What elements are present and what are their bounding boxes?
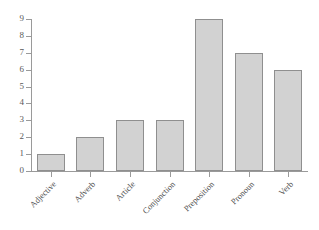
y-axis-tick-label-text: 5 bbox=[2, 82, 24, 91]
bar bbox=[37, 154, 65, 171]
y-axis-tick-label-text: 8 bbox=[2, 31, 24, 40]
x-axis-tick bbox=[249, 172, 250, 177]
x-axis-tick bbox=[209, 172, 210, 177]
bar bbox=[274, 70, 302, 171]
y-axis-tick-label: 8 bbox=[0, 31, 24, 40]
y-axis-tick-label-text: 3 bbox=[2, 115, 24, 124]
bar-chart: 0123456789 AdjectiveAdverbArticleConjunc… bbox=[0, 0, 319, 230]
y-axis-tick-label-text: 1 bbox=[2, 149, 24, 158]
x-axis-tick bbox=[51, 172, 52, 177]
y-axis-tick-label: 4 bbox=[0, 98, 24, 107]
y-axis-tick-label: 2 bbox=[0, 132, 24, 141]
bar bbox=[156, 120, 184, 171]
y-axis-tick-label: 0 bbox=[0, 166, 24, 175]
bar bbox=[116, 120, 144, 171]
x-axis-tick bbox=[170, 172, 171, 177]
y-axis-tick-label: 7 bbox=[0, 48, 24, 57]
y-axis-tick-label: 5 bbox=[0, 82, 24, 91]
bar bbox=[195, 19, 223, 171]
y-axis-tick-label: 3 bbox=[0, 115, 24, 124]
y-axis-tick-label-text: 9 bbox=[2, 14, 24, 23]
bars-group bbox=[31, 19, 308, 171]
x-axis-tick bbox=[130, 172, 131, 177]
y-axis-tick bbox=[26, 171, 31, 172]
bar bbox=[76, 137, 104, 171]
y-axis-tick-label-text: 6 bbox=[2, 65, 24, 74]
bar bbox=[235, 53, 263, 171]
x-axis-tick bbox=[90, 172, 91, 177]
y-axis-tick-label-text: 0 bbox=[2, 166, 24, 175]
x-axis-tick bbox=[288, 172, 289, 177]
y-axis-tick-label-text: 4 bbox=[2, 98, 24, 107]
y-axis-tick-label-text: 2 bbox=[2, 132, 24, 141]
y-axis-tick-label: 1 bbox=[0, 149, 24, 158]
y-axis-tick-label-text: 7 bbox=[2, 48, 24, 57]
y-axis-tick-label: 9 bbox=[0, 14, 24, 23]
y-axis-tick-label: 6 bbox=[0, 65, 24, 74]
